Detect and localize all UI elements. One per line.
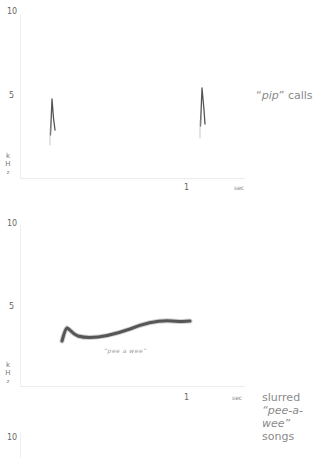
y-tick-10: 10 (7, 219, 17, 228)
x-tick-1: 1 (184, 393, 189, 402)
y-axis (20, 225, 21, 385)
x-unit-label: sec (232, 394, 242, 401)
y-tick-5: 5 (9, 302, 14, 311)
x-axis (20, 386, 245, 387)
pip-call-2 (200, 88, 205, 138)
y-unit-label: k H z (4, 361, 12, 385)
pee-a-wee-song-trace (62, 321, 190, 341)
caption-pee-a-wee-songs: slurred “pee-a-wee” songs (262, 391, 329, 443)
pip-call-1 (50, 99, 55, 145)
trace-label: “pee a wee” (104, 347, 147, 354)
y-axis (20, 432, 21, 458)
spectrogram-traces (0, 0, 329, 458)
y-tick-10: 10 (7, 433, 17, 442)
